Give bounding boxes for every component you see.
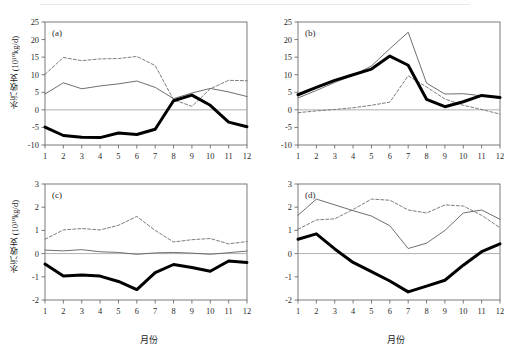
series-thin_solid-d <box>298 199 500 248</box>
x-tick-label-b: 7 <box>406 152 410 161</box>
y-tick-label-c: 3 <box>35 180 39 189</box>
x-tick-label-d: 7 <box>406 307 410 316</box>
x-tick-label-b: 12 <box>496 152 504 161</box>
x-tick-label-a: 9 <box>190 152 194 161</box>
x-tick-label-d: 8 <box>424 307 428 316</box>
y-tick-label-c: 0 <box>35 250 39 259</box>
x-tick-label-a: 6 <box>135 152 139 161</box>
x-tick-label-d: 4 <box>351 307 356 316</box>
series-dashed-a <box>45 56 247 106</box>
x-tick-label-c: 7 <box>153 307 157 316</box>
y-tick-label-d: 2 <box>288 203 292 212</box>
x-tick-label-b: 1 <box>296 152 300 161</box>
x-tick-label-c: 10 <box>206 307 214 316</box>
panel-a-plot: -10-50510152025123456789101112(a) <box>0 12 253 177</box>
x-tick-label-c: 3 <box>80 307 84 316</box>
y-tick-label-a: 0 <box>35 106 39 115</box>
x-tick-label-a: 12 <box>243 152 251 161</box>
plot-frame-a <box>45 22 247 145</box>
series-thin_solid-a <box>45 81 247 99</box>
x-tick-label-c: 5 <box>116 307 120 316</box>
x-tick-label-c: 8 <box>171 307 175 316</box>
x-tick-label-a: 7 <box>153 152 157 161</box>
x-tick-label-d: 12 <box>496 307 504 316</box>
x-tick-label-a: 8 <box>171 152 175 161</box>
x-tick-label-b: 6 <box>388 152 392 161</box>
x-tick-label-a: 10 <box>206 152 214 161</box>
panel-tag-c: (c) <box>52 190 62 200</box>
y-tick-label-b: 20 <box>284 36 292 45</box>
y-tick-label-d: -2 <box>285 296 292 305</box>
y-tick-label-a: -10 <box>28 141 39 150</box>
panel-c-ylabel: 水汽收支 (10¹⁰kg/d) <box>9 200 21 273</box>
x-tick-label-a: 2 <box>61 152 65 161</box>
x-tick-label-b: 5 <box>369 152 373 161</box>
x-tick-label-d: 6 <box>388 307 392 316</box>
x-tick-label-d: 1 <box>296 307 300 316</box>
panel-tag-b: (b) <box>305 28 316 38</box>
y-tick-label-d: 1 <box>288 226 292 235</box>
y-tick-label-c: 2 <box>35 203 39 212</box>
x-tick-label-a: 11 <box>225 152 233 161</box>
y-tick-label-b: 25 <box>284 18 292 27</box>
panel-tag-a: (a) <box>52 28 62 38</box>
x-tick-label-c: 4 <box>98 307 103 316</box>
x-tick-label-b: 11 <box>478 152 486 161</box>
x-tick-label-b: 3 <box>333 152 337 161</box>
y-tick-label-b: -5 <box>285 123 292 132</box>
x-tick-label-b: 2 <box>314 152 318 161</box>
x-tick-label-b: 9 <box>443 152 447 161</box>
series-thick_solid-a <box>45 95 247 138</box>
y-tick-label-a: 5 <box>35 88 39 97</box>
panel-c: -2-10123123456789101112(c) <box>0 176 253 352</box>
panel-d-plot: -2-10123123456789101112(d) <box>253 176 506 352</box>
figure-root: -10-50510152025123456789101112(a) 水汽收支 (… <box>0 0 506 352</box>
panel-d: -2-10123123456789101112(d) <box>253 176 506 352</box>
panel-a-ylabel: 水汽收支 (10¹⁰kg/d) <box>9 36 21 109</box>
series-dashed-d <box>298 199 500 229</box>
y-tick-label-a: -5 <box>32 123 39 132</box>
y-tick-label-b: 15 <box>284 53 292 62</box>
y-tick-label-a: 20 <box>31 36 39 45</box>
x-tick-label-d: 9 <box>443 307 447 316</box>
y-tick-label-b: 0 <box>288 106 292 115</box>
x-tick-label-a: 3 <box>80 152 84 161</box>
panel-c-plot: -2-10123123456789101112(c) <box>0 176 253 352</box>
y-tick-label-a: 25 <box>31 18 39 27</box>
x-tick-label-a: 4 <box>98 152 103 161</box>
x-tick-label-b: 10 <box>459 152 467 161</box>
x-tick-label-c: 1 <box>43 307 47 316</box>
series-dashed-c <box>45 216 247 243</box>
y-tick-label-a: 15 <box>31 53 39 62</box>
x-tick-label-b: 4 <box>351 152 356 161</box>
series-thick_solid-b <box>298 56 500 107</box>
x-tick-label-d: 3 <box>333 307 337 316</box>
series-thin_solid-b <box>298 32 500 98</box>
x-tick-label-c: 11 <box>225 307 233 316</box>
x-tick-label-d: 5 <box>369 307 373 316</box>
panel-tag-d: (d) <box>305 190 316 200</box>
x-tick-label-b: 8 <box>424 152 428 161</box>
panel-d-xlabel: 月份 <box>387 333 405 346</box>
y-tick-label-b: 5 <box>288 88 292 97</box>
x-tick-label-a: 5 <box>116 152 120 161</box>
scan-artifact-line <box>40 4 470 5</box>
x-tick-label-d: 10 <box>459 307 467 316</box>
series-thick_solid-c <box>45 261 247 290</box>
y-tick-label-d: -1 <box>285 273 292 282</box>
y-tick-label-b: -10 <box>281 141 292 150</box>
x-tick-label-c: 9 <box>190 307 194 316</box>
x-tick-label-d: 11 <box>478 307 486 316</box>
panel-b-plot: -10-50510152025123456789101112(b) <box>253 12 506 177</box>
y-tick-label-c: -1 <box>32 273 39 282</box>
y-tick-label-c: 1 <box>35 226 39 235</box>
panel-a: -10-50510152025123456789101112(a) <box>0 12 253 177</box>
y-tick-label-d: 0 <box>288 250 292 259</box>
y-tick-label-c: -2 <box>32 296 39 305</box>
panel-c-xlabel: 月份 <box>140 333 158 346</box>
y-tick-label-d: 3 <box>288 180 292 189</box>
x-tick-label-c: 12 <box>243 307 251 316</box>
y-tick-label-a: 10 <box>31 71 39 80</box>
x-tick-label-a: 1 <box>43 152 47 161</box>
x-tick-label-d: 2 <box>314 307 318 316</box>
